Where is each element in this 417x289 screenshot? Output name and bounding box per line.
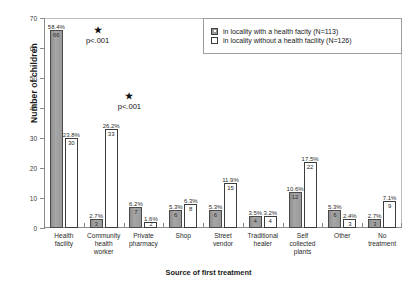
bar-percent-label: 2.7% <box>368 213 382 219</box>
bar-count-label: 12 <box>292 194 299 200</box>
bar-with-facility: 5.3%6 <box>328 210 341 228</box>
bar-count-label: 66 <box>53 32 60 38</box>
bar-without-facility: 11.9%15 <box>224 183 237 228</box>
x-tick <box>84 223 85 228</box>
bar-without-facility: 3.2%4 <box>264 216 277 228</box>
bar-count-label: 22 <box>307 164 314 170</box>
x-category-label: Shop <box>163 232 203 240</box>
p-value-label: p<.001 <box>118 102 141 111</box>
bar-with-facility: 5.3%6 <box>209 210 222 228</box>
star-icon: ★ <box>86 26 109 35</box>
y-tick <box>40 228 45 229</box>
y-tick-label: 0 <box>33 225 37 232</box>
y-tick <box>40 198 45 199</box>
y-tick <box>40 168 45 169</box>
y-tick-label: 40 <box>30 105 37 112</box>
y-tick <box>40 48 45 49</box>
x-tick <box>243 223 244 228</box>
bar-percent-label: 6.3% <box>184 198 198 204</box>
y-tick-label: 20 <box>30 165 37 172</box>
x-tick <box>362 223 363 228</box>
bar-percent-label: 7.1% <box>383 195 397 201</box>
bar-percent-label: 5.3% <box>328 204 342 210</box>
x-category-label: Health facility <box>44 232 84 248</box>
x-category-label: Other <box>322 232 362 240</box>
x-tick <box>203 223 204 228</box>
x-axis-title: Source of first treatment <box>0 268 417 277</box>
bar-count-label: 3 <box>94 221 97 227</box>
x-category-label: No treatment <box>362 232 402 248</box>
y-tick <box>40 78 45 79</box>
bar-without-facility: 1.6%2 <box>144 222 157 228</box>
hollow-square-icon <box>211 37 218 44</box>
bar-with-facility: 58.4%66 <box>50 30 63 228</box>
significance-annotation: ★p<.001 <box>86 26 109 45</box>
bar-with-facility: 2.7%3 <box>368 219 381 228</box>
y-axis-title: Number of children <box>29 13 39 153</box>
x-tick <box>124 223 125 228</box>
x-category-label: Private pharmacy <box>124 232 164 248</box>
bar-without-facility: 23.8%30 <box>65 138 78 228</box>
y-tick <box>40 138 45 139</box>
bar-with-facility: 6.2%7 <box>129 207 142 228</box>
bar-percent-label: 23.8% <box>63 132 80 138</box>
y-tick <box>40 18 45 19</box>
x-tick <box>283 223 284 228</box>
bar-count-label: 4 <box>254 218 257 224</box>
bar-with-facility: 2.7%3 <box>90 219 103 228</box>
legend-item-without-facility: in locality without a health facility (N… <box>211 37 395 44</box>
bar-with-facility: 10.6%12 <box>289 192 302 228</box>
bar-count-label: 6 <box>174 212 177 218</box>
x-tick <box>322 223 323 228</box>
star-icon: ★ <box>118 92 141 101</box>
y-axis-line <box>44 18 45 228</box>
bar-without-facility: 7.1%9 <box>383 201 396 228</box>
p-value-label: p<.001 <box>86 36 109 45</box>
bar-count-label: 3 <box>348 221 351 227</box>
bar-count-label: 2 <box>149 221 152 227</box>
bar-chart: Number of children 01020304050607058.4%6… <box>0 0 417 289</box>
bar-percent-label: 10.6% <box>287 186 304 192</box>
legend-label-with-facility: in locality with a health facity (N=113) <box>223 28 338 35</box>
bar-percent-label: 5.3% <box>209 204 223 210</box>
bar-without-facility: 2.4%3 <box>343 219 356 228</box>
bar-without-facility: 17.5%22 <box>304 162 317 228</box>
x-category-label: Street vendor <box>203 232 243 248</box>
bar-percent-label: 6.2% <box>129 201 143 207</box>
y-tick-label: 60 <box>30 45 37 52</box>
bar-count-label: 30 <box>68 140 75 146</box>
bar-percent-label: 2.4% <box>343 213 357 219</box>
legend-item-with-facility: in locality with a health facity (N=113) <box>211 28 395 35</box>
bar-count-label: 9 <box>388 203 391 209</box>
y-tick <box>40 108 45 109</box>
x-tick <box>163 223 164 228</box>
bar-with-facility: 5.3%6 <box>169 210 182 228</box>
bar-count-label: 15 <box>227 185 234 191</box>
x-category-label: Traditional healer <box>243 232 283 248</box>
bar-percent-label: 26.2% <box>103 123 120 129</box>
y-tick-label: 10 <box>30 195 37 202</box>
y-tick-label: 70 <box>30 15 37 22</box>
y-tick-label: 50 <box>30 75 37 82</box>
bar-count-label: 6 <box>333 212 336 218</box>
legend: in locality with a health facity (N=113)… <box>203 18 402 54</box>
bar-count-label: 8 <box>189 206 192 212</box>
x-category-label: Community health worker <box>84 232 124 255</box>
significance-annotation: ★p<.001 <box>118 92 141 111</box>
bar-count-label: 3 <box>373 221 376 227</box>
x-tick <box>44 223 45 228</box>
x-category-label: Self collected plants <box>283 232 323 255</box>
filled-square-icon <box>211 28 218 35</box>
bar-percent-label: 2.7% <box>89 213 103 219</box>
bar-percent-label: 5.3% <box>169 204 183 210</box>
bar-percent-label: 3.5% <box>248 210 262 216</box>
bar-without-facility: 26.2%33 <box>105 129 118 228</box>
bar-count-label: 4 <box>269 218 272 224</box>
bar-percent-label: 3.2% <box>263 210 277 216</box>
y-tick-label: 30 <box>30 135 37 142</box>
bar-without-facility: 6.3%8 <box>184 204 197 228</box>
bar-with-facility: 3.5%4 <box>249 216 262 228</box>
bar-count-label: 7 <box>134 209 137 215</box>
bar-count-label: 6 <box>214 212 217 218</box>
bar-percent-label: 17.5% <box>302 156 319 162</box>
